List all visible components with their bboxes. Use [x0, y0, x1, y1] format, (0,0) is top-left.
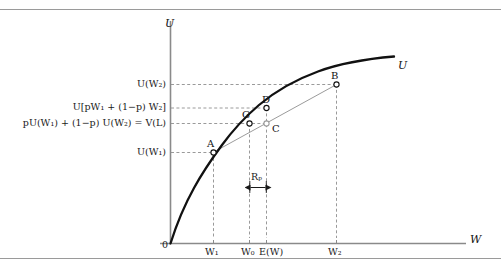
point-label-C: C: [272, 124, 280, 134]
x-tick-label-ew: E(W): [259, 247, 283, 257]
marker-point-B: [334, 82, 339, 87]
origin-label: 0: [162, 240, 168, 250]
point-label-B: B: [331, 71, 338, 81]
vertical-guides: [214, 85, 337, 239]
x-axis-label: W: [470, 234, 481, 245]
marker-point-A: [211, 150, 216, 155]
figure-root: U W 0 U U(W₂) U[pW₁ + (1−p) W₂] pU(W₁) +…: [0, 0, 501, 275]
y-axis-label: U: [165, 18, 174, 29]
risk-premium-label: Rₚ: [251, 172, 262, 182]
x-tick-label-w2: W₂: [328, 247, 342, 257]
y-tick-label-u-w2: U(W₂): [0, 79, 166, 89]
utility-plot: [0, 0, 501, 275]
marker-point-D: [264, 105, 269, 110]
y-tick-label-pu-w1: pU(W₁) + (1−p) U(W₂) = V(L): [0, 118, 166, 128]
point-label-G: G: [242, 110, 250, 120]
x-tick-label-w1: W₁: [205, 247, 219, 257]
y-tick-label-u-pw1: U[pW₁ + (1−p) W₂]: [0, 102, 166, 112]
curve-label-U: U: [398, 60, 407, 71]
marker-point-C: [264, 121, 269, 126]
chord-line-AB: [213, 85, 337, 153]
point-label-A: A: [207, 139, 214, 149]
point-label-D: D: [262, 95, 270, 105]
y-tick-label-u-w1: U(W₁): [0, 147, 166, 157]
x-tick-label-w0: W₀: [241, 247, 255, 257]
horizontal-guides: [171, 85, 336, 153]
marker-point-G: [247, 121, 252, 126]
